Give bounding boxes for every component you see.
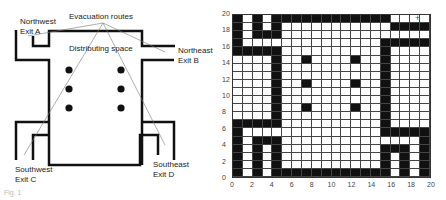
free-cell [341,153,351,161]
free-cell [332,39,342,47]
wall-cell [410,23,420,31]
wall-cell [253,137,263,145]
free-cell [351,64,361,72]
wall-cell [420,161,430,169]
free-cell [341,104,351,112]
free-cell [371,161,381,169]
free-cell [322,56,332,64]
free-cell [341,56,351,64]
free-cell [282,112,292,120]
free-cell [263,169,273,177]
wall-cell [420,153,430,161]
free-cell [371,153,381,161]
wall-cell [272,64,282,72]
figure-caption: Fig. 1 [4,189,22,196]
free-cell [400,112,410,120]
free-cell [292,72,302,80]
free-cell [400,104,410,112]
free-cell [341,72,351,80]
free-cell [332,104,342,112]
free-cell [322,112,332,120]
free-cell [410,72,420,80]
free-cell [341,39,351,47]
free-cell [391,112,401,120]
free-cell [292,88,302,96]
free-cell [371,88,381,96]
x-tick-label: 18 [405,181,417,188]
free-cell [302,39,312,47]
free-cell [341,23,351,31]
free-cell [253,39,263,47]
free-cell [420,64,430,72]
free-cell [332,31,342,39]
wall-cell [410,39,420,47]
free-cell [322,137,332,145]
free-cell [243,96,253,104]
wall-cell [351,56,361,64]
free-cell [243,39,253,47]
wall-cell [341,15,351,23]
free-cell [322,120,332,128]
free-cell [361,128,371,136]
free-cell [341,161,351,169]
free-cell [332,128,342,136]
free-cell [341,96,351,104]
free-cell [322,153,332,161]
free-cell [282,120,292,128]
wall-cell [381,145,391,153]
free-cell [371,145,381,153]
wall-cell [233,153,243,161]
wall-cell [381,128,391,136]
free-cell [253,80,263,88]
free-cell [371,39,381,47]
wall-cell [272,88,282,96]
free-cell [420,56,430,64]
wall-cell [272,169,282,177]
free-cell [410,64,420,72]
free-cell [312,128,322,136]
free-cell [341,31,351,39]
free-cell [302,112,312,120]
free-cell [243,169,253,177]
free-cell [312,31,322,39]
free-cell [361,64,371,72]
wall-cell [253,120,263,128]
free-cell [322,47,332,55]
free-cell [332,56,342,64]
free-cell [233,104,243,112]
free-cell [361,161,371,169]
wall-cell [420,169,430,177]
free-cell [322,128,332,136]
label-distributing-space: Distributing space [69,44,133,53]
free-cell [282,161,292,169]
free-cell [332,47,342,55]
y-tick-label: 20 [222,10,232,17]
wall-cell [381,112,391,120]
free-cell [312,39,322,47]
wall-cell [253,169,263,177]
wall-cell [400,169,410,177]
wall-cell [312,15,322,23]
free-cell [351,145,361,153]
free-cell [302,64,312,72]
grid-map [232,14,431,178]
x-tick-label: 6 [286,181,298,188]
free-cell [371,80,381,88]
free-cell [292,137,302,145]
free-cell [312,153,322,161]
wall-cell [391,128,401,136]
free-cell [322,23,332,31]
y-tick-label: 12 [222,76,232,83]
free-cell [302,72,312,80]
free-cell [263,153,273,161]
free-cell [341,88,351,96]
free-cell [243,64,253,72]
wall-cell [332,169,342,177]
wall-cell [272,47,282,55]
free-cell [233,112,243,120]
free-cell [272,128,282,136]
wall-cell [272,137,282,145]
x-tick-label: 16 [385,181,397,188]
free-cell [341,80,351,88]
wall-cell [233,47,243,55]
